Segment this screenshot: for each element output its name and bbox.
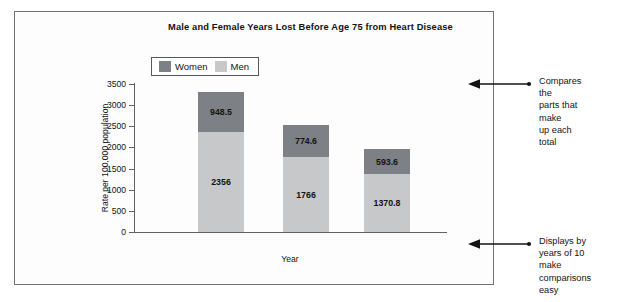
x-axis-line [134, 232, 447, 233]
y-axis-tick-label: 3500 [107, 79, 126, 89]
y-axis-tick [129, 232, 134, 233]
bar-segment-men-2000[interactable]: 1766 [283, 157, 329, 232]
y-axis-tick [129, 126, 134, 127]
y-axis-tick [129, 190, 134, 191]
y-axis-tick [129, 169, 134, 170]
y-axis-tick [129, 105, 134, 106]
bar-value-men-1990: 2356 [211, 177, 231, 187]
left-arrow-icon [466, 238, 536, 250]
y-axis-tick-label: 2000 [107, 142, 126, 152]
chart-title: Male and Female Years Lost Before Age 75… [0, 22, 621, 32]
plot-area: 0500100015002000250030003500948.52356199… [134, 84, 446, 232]
bar-value-women-2010: 593.6 [376, 157, 398, 167]
chart-legend: Women Men [151, 57, 259, 76]
x-axis-title: Year [134, 254, 446, 264]
legend-label-women: Women [175, 61, 208, 72]
bar-segment-women-1990[interactable]: 948.5 [198, 92, 244, 132]
left-arrow-icon [466, 78, 536, 90]
y-axis-title-text: Rate per 100,000 population [100, 104, 110, 212]
annotation-text: Compares the parts that make up each tot… [539, 75, 581, 148]
bar-value-women-2000: 774.6 [295, 136, 317, 146]
y-axis-tick [129, 211, 134, 212]
y-axis-tick [129, 84, 134, 85]
legend-entry-men: Men [215, 61, 249, 72]
y-axis-tick-label: 500 [112, 206, 126, 216]
y-axis-tick-label: 1000 [107, 185, 126, 195]
legend-entry-women: Women [159, 61, 208, 72]
y-axis-tick-label: 2500 [107, 121, 126, 131]
bar-segment-women-2000[interactable]: 774.6 [283, 125, 329, 158]
bar-group-2000[interactable]: 774.61766 [283, 125, 329, 232]
bar-group-1990[interactable]: 948.52356 [198, 92, 244, 232]
bar-segment-men-2010[interactable]: 1370.8 [364, 174, 410, 232]
bar-value-men-2010: 1370.8 [374, 198, 401, 208]
bar-group-2010[interactable]: 593.61370.8 [364, 149, 410, 232]
y-axis-tick [129, 147, 134, 148]
bar-value-men-2000: 1766 [296, 190, 316, 200]
y-axis-tick-label: 3000 [107, 100, 126, 110]
legend-swatch-men-icon [215, 61, 227, 72]
y-axis-tick-label: 1500 [107, 164, 126, 174]
annotation-text: Displays by years of 10 make comparisons… [539, 235, 591, 296]
legend-swatch-women-icon [159, 61, 171, 72]
y-axis-tick-label: 0 [121, 227, 126, 237]
bar-segment-women-2010[interactable]: 593.6 [364, 149, 410, 174]
bar-segment-men-1990[interactable]: 2356 [198, 132, 244, 232]
bar-value-women-1990: 948.5 [210, 107, 232, 117]
legend-label-men: Men [231, 61, 249, 72]
